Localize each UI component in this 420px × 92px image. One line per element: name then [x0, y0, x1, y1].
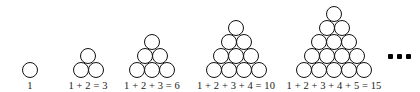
- circle: [206, 62, 222, 78]
- ellipsis-dot: [406, 54, 411, 59]
- circle-row: [284, 6, 384, 20]
- circle: [73, 62, 89, 78]
- group-caption: 1: [14, 80, 46, 92]
- group-caption: 1 + 2 = 3: [62, 80, 114, 92]
- circle-row: [192, 48, 280, 62]
- group-caption: 1 + 2 + 3 = 6: [118, 80, 186, 92]
- circle-row: [62, 48, 114, 62]
- circle-group: 1 + 2 = 3: [62, 48, 114, 92]
- circle: [159, 62, 175, 78]
- circle-group: 1 + 2 + 3 + 4 + 5 = 15: [284, 6, 384, 92]
- circle-row: [192, 34, 280, 48]
- circle: [311, 62, 327, 78]
- circle: [22, 62, 38, 78]
- circle-row: [284, 48, 384, 62]
- ellipsis-dot: [397, 54, 402, 59]
- group-caption: 1 + 2 + 3 + 4 = 10: [192, 80, 280, 92]
- circle: [341, 62, 357, 78]
- circle: [144, 62, 160, 78]
- circle-row: [284, 34, 384, 48]
- circle-row: [192, 20, 280, 34]
- circle-group: 1: [14, 62, 46, 92]
- circle: [129, 62, 145, 78]
- circle-row: [192, 62, 280, 78]
- circle: [251, 62, 267, 78]
- ellipsis-dot: [388, 54, 393, 59]
- circle-row: [62, 62, 114, 78]
- circle: [88, 62, 104, 78]
- circle-stack: [284, 6, 384, 78]
- circle-row: [284, 20, 384, 34]
- circle: [296, 62, 312, 78]
- circle-stack: [192, 20, 280, 78]
- circle-stack: [62, 48, 114, 78]
- circle-stack: [14, 62, 46, 78]
- circle-row: [14, 62, 46, 78]
- circle: [221, 62, 237, 78]
- circle-row: [118, 48, 186, 62]
- circle-row: [118, 62, 186, 78]
- group-caption: 1 + 2 + 3 + 4 + 5 = 15: [284, 80, 384, 92]
- circle: [356, 62, 372, 78]
- circle-stack: [118, 34, 186, 78]
- circle: [236, 62, 252, 78]
- ellipsis-icon: [388, 54, 411, 59]
- circle-group: 1 + 2 + 3 = 6: [118, 34, 186, 92]
- circle-row: [284, 62, 384, 78]
- circle-row: [118, 34, 186, 48]
- triangular-numbers-figure: 1 1 + 2 = 3 1 + 2 + 3 = 6 1 + 2 + 3 + 4 …: [0, 0, 420, 92]
- circle: [326, 62, 342, 78]
- circle-group: 1 + 2 + 3 + 4 = 10: [192, 20, 280, 92]
